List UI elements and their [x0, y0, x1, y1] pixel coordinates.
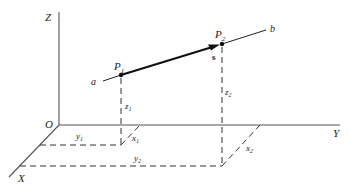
- coordinate-diagram: Z Y X O a b s P1 P2 z1 z2 x1 x2 y1 y2: [0, 0, 348, 189]
- vector-s: [121, 47, 214, 76]
- labels: Z Y X O a b s P1 P2 z1 z2 x1 x2 y1 y2: [17, 11, 341, 184]
- line-b-segment: [222, 30, 266, 44]
- y-axis-label: Y: [333, 127, 341, 139]
- p2-x-line: [222, 125, 260, 166]
- x-axis: [9, 125, 59, 177]
- y2-label: y2: [133, 153, 141, 164]
- line-start-label: a: [91, 76, 96, 87]
- line-end-label: b: [270, 23, 275, 34]
- z1-label: z1: [124, 101, 132, 112]
- x1-label: x1: [131, 133, 139, 144]
- projection-lines: [20, 47, 260, 166]
- axes: [9, 12, 340, 177]
- line-a-segment: [103, 75, 121, 81]
- line-ab: [103, 30, 266, 81]
- x2-label: x2: [245, 143, 253, 154]
- p1-label: P1: [113, 60, 124, 75]
- z2-label: z2: [224, 87, 232, 98]
- p2-label: P2: [214, 28, 226, 43]
- vector-arrowhead: [208, 45, 220, 51]
- vector-s-label: s: [212, 52, 216, 62]
- z-axis-label: Z: [45, 11, 52, 23]
- x-axis-label: X: [17, 172, 26, 184]
- y1-label: y1: [75, 131, 83, 142]
- origin-label: O: [45, 118, 53, 130]
